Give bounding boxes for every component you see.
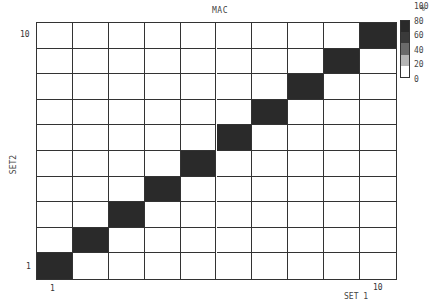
heatmap-cell	[73, 177, 109, 203]
heatmap-cell	[217, 177, 253, 203]
heatmap-cell	[217, 100, 253, 126]
colorbar-tick: 60	[414, 31, 424, 40]
heatmap-cell	[145, 49, 181, 75]
heatmap-cell	[324, 202, 360, 228]
heatmap-cell	[288, 100, 324, 126]
heatmap-cell	[252, 177, 288, 203]
heatmap-cell	[217, 228, 253, 254]
heatmap-cell	[288, 177, 324, 203]
heatmap-cell	[145, 74, 181, 100]
heatmap-cell	[37, 253, 73, 279]
colorbar-segment	[401, 55, 409, 66]
heatmap-cell	[181, 228, 217, 254]
colorbar-tick: 80	[414, 17, 424, 26]
heatmap-cell	[360, 228, 396, 254]
heatmap-cell	[73, 202, 109, 228]
heatmap-cell	[145, 202, 181, 228]
colorbar-segment	[401, 43, 409, 54]
colorbar-segment	[401, 21, 409, 32]
heatmap-cell	[217, 202, 253, 228]
heatmap-cell	[37, 49, 73, 75]
heatmap-cell	[324, 151, 360, 177]
colorbar-tick: 0	[414, 75, 419, 84]
heatmap-cell	[181, 49, 217, 75]
heatmap-cell	[109, 228, 145, 254]
heatmap-cell	[288, 49, 324, 75]
colorbar	[400, 20, 410, 78]
heatmap-cell	[37, 151, 73, 177]
heatmap-cell	[145, 177, 181, 203]
heatmap-cell	[73, 228, 109, 254]
heatmap-cell	[360, 177, 396, 203]
heatmap-cell	[217, 23, 253, 49]
heatmap-cell	[181, 125, 217, 151]
heatmap-cell	[324, 228, 360, 254]
heatmap-cell	[109, 100, 145, 126]
heatmap-cell	[109, 177, 145, 203]
heatmap-cell	[109, 125, 145, 151]
chart-title: MAC	[190, 6, 250, 15]
heatmap-cell	[37, 23, 73, 49]
heatmap-cell	[145, 151, 181, 177]
heatmap-cell	[288, 151, 324, 177]
heatmap-cell	[37, 100, 73, 126]
colorbar-segment	[401, 66, 409, 77]
heatmap-cell	[360, 253, 396, 279]
heatmap-cell	[360, 125, 396, 151]
heatmap-cell	[217, 151, 253, 177]
heatmap-cell	[73, 253, 109, 279]
heatmap-cell	[109, 74, 145, 100]
heatmap-cell	[217, 49, 253, 75]
heatmap-cell	[324, 100, 360, 126]
heatmap-cell	[288, 228, 324, 254]
heatmap-cell	[288, 202, 324, 228]
heatmap-cell	[181, 74, 217, 100]
heatmap-cell	[181, 177, 217, 203]
colorbar-segment	[401, 32, 409, 43]
heatmap-cell	[109, 49, 145, 75]
heatmap-cell	[109, 202, 145, 228]
heatmap-cell	[252, 23, 288, 49]
heatmap-cell	[288, 23, 324, 49]
heatmap-cell	[324, 177, 360, 203]
heatmap-cell	[73, 100, 109, 126]
heatmap-cell	[360, 74, 396, 100]
heatmap-cell	[109, 151, 145, 177]
x-axis-title: SET 1	[344, 292, 368, 301]
heatmap-cell	[252, 228, 288, 254]
heatmap-cell	[181, 100, 217, 126]
heatmap-cell	[217, 125, 253, 151]
heatmap-cell	[73, 49, 109, 75]
heatmap-cell	[145, 253, 181, 279]
colorbar-tick: 100	[414, 2, 428, 11]
heatmap-cell	[181, 202, 217, 228]
heatmap-cell	[181, 253, 217, 279]
heatmap-cell	[252, 125, 288, 151]
mac-grid	[36, 22, 397, 280]
heatmap-cell	[37, 125, 73, 151]
heatmap-cell	[360, 100, 396, 126]
heatmap-cell	[324, 23, 360, 49]
heatmap-cell	[73, 151, 109, 177]
x-tick-min: 1	[50, 284, 55, 293]
heatmap-cell	[37, 177, 73, 203]
heatmap-cell	[37, 202, 73, 228]
heatmap-cell	[252, 151, 288, 177]
heatmap-cell	[324, 74, 360, 100]
heatmap-cell	[217, 74, 253, 100]
colorbar-tick: 40	[414, 46, 424, 55]
heatmap-cell	[324, 49, 360, 75]
y-tick-max: 10	[20, 30, 30, 39]
heatmap-cell	[252, 253, 288, 279]
heatmap-cell	[360, 49, 396, 75]
y-axis-title: SET2	[9, 150, 18, 180]
heatmap-cell	[181, 151, 217, 177]
heatmap-cell	[145, 23, 181, 49]
heatmap-cell	[109, 253, 145, 279]
heatmap-cell	[252, 202, 288, 228]
heatmap-cell	[73, 125, 109, 151]
heatmap-cell	[252, 49, 288, 75]
heatmap-cell	[37, 74, 73, 100]
heatmap-cell	[324, 125, 360, 151]
heatmap-cell	[252, 74, 288, 100]
